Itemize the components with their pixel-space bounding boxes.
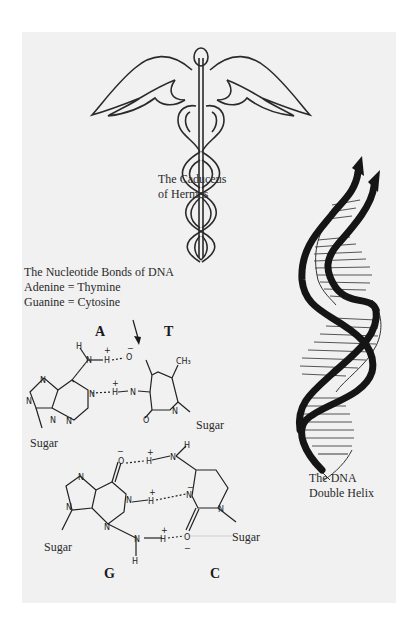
base-label-t: T	[164, 324, 173, 339]
svg-text:H: H	[112, 388, 118, 397]
svg-text:H: H	[76, 342, 82, 351]
svg-text:N: N	[126, 496, 132, 505]
svg-text:O: O	[118, 457, 124, 466]
double-helix-icon	[299, 156, 381, 480]
nucleotide-caption: The Nucleotide Bonds of DNA Adenine = Th…	[24, 265, 174, 310]
svg-text:O: O	[143, 416, 149, 425]
svg-text:CH₃: CH₃	[176, 357, 191, 366]
svg-text:N: N	[89, 390, 95, 399]
base-label-g: G	[104, 566, 115, 581]
nucleotide-title: The Nucleotide Bonds of DNA	[24, 265, 174, 280]
arrow-icon	[133, 320, 141, 345]
pair-guanine-cytosine: Guanine = Cytosine	[24, 295, 174, 310]
gc-atom-labels: N N N N O − H + N H H + N − N N H H + O …	[66, 441, 224, 566]
svg-text:N: N	[26, 397, 32, 406]
svg-text:−: −	[117, 447, 124, 456]
sugar-label-g: Sugar	[44, 540, 72, 555]
caduceus-label-line2: of Hermes	[158, 187, 226, 202]
sugar-label-c: Sugar	[232, 530, 260, 545]
svg-text:N: N	[170, 453, 176, 462]
svg-text:N: N	[50, 416, 56, 425]
sugar-label-t: Sugar	[196, 418, 224, 433]
svg-text:+: +	[104, 346, 111, 355]
svg-text:+: +	[147, 448, 154, 457]
svg-text:H: H	[132, 557, 138, 566]
svg-text:N: N	[66, 503, 72, 512]
svg-text:N: N	[172, 407, 178, 416]
svg-text:N: N	[40, 376, 46, 385]
helix-label: The DNA Double Helix	[309, 471, 374, 501]
svg-text:H: H	[148, 497, 154, 506]
svg-text:H: H	[160, 535, 166, 544]
svg-text:N: N	[186, 491, 192, 500]
illustration-canvas: N N N N N N H H + O − H + N O N CH₃	[0, 0, 415, 633]
svg-text:N: N	[104, 523, 110, 532]
helix-label-line2: Double Helix	[309, 486, 374, 501]
caduceus-label-line1: The Caduceus	[158, 172, 226, 187]
svg-text:+: +	[112, 379, 119, 388]
helix-label-line1: The DNA	[309, 471, 374, 486]
svg-text:−: −	[184, 544, 191, 553]
caduceus-label: The Caduceus of Hermes	[158, 172, 226, 202]
svg-text:N: N	[130, 388, 136, 397]
svg-text:N: N	[78, 473, 84, 482]
svg-text:+: +	[161, 526, 168, 535]
svg-text:+: +	[149, 488, 156, 497]
base-label-c: C	[210, 566, 220, 581]
svg-text:N: N	[66, 417, 72, 426]
caduceus-icon	[92, 48, 310, 262]
svg-text:H: H	[104, 356, 110, 365]
svg-text:−: −	[187, 483, 194, 492]
svg-text:−: −	[127, 344, 134, 353]
svg-text:H: H	[184, 441, 190, 450]
svg-text:H: H	[146, 457, 152, 466]
svg-text:N: N	[86, 356, 92, 365]
pair-adenine-thymine: Adenine = Thymine	[24, 280, 174, 295]
svg-text:O: O	[184, 533, 190, 542]
svg-text:O: O	[126, 353, 132, 362]
base-label-a: A	[95, 324, 105, 339]
svg-text:N: N	[134, 535, 140, 544]
svg-text:N: N	[218, 505, 224, 514]
sugar-label-a: Sugar	[30, 436, 58, 451]
